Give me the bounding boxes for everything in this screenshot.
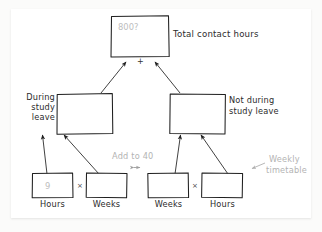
node-during-box[interactable] [57, 94, 113, 135]
weekly-timetable-annotation-line1: Weekly [269, 155, 300, 164]
node-notduring-box[interactable] [170, 94, 226, 134]
arrow-right-hours-to-notduring [201, 135, 228, 174]
during-study-leave-label-line3: leave [6, 113, 55, 122]
arrow-left-weeks-to-during [64, 135, 99, 174]
left-hours-label: Hours [29, 200, 76, 209]
right-hours-label: Hours [199, 200, 246, 209]
right-multiply-operator: × [192, 182, 198, 190]
arrow-notduring-to-total [155, 62, 180, 93]
arrow-left-hours-to-during [43, 135, 48, 174]
arrow-right-weeks-to-notduring [175, 135, 181, 174]
during-study-leave-label-line2: study [6, 103, 55, 112]
arrow-during-to-total [101, 62, 126, 93]
left-multiply-operator: × [77, 182, 83, 190]
sum-plus-operator: + [137, 57, 144, 66]
diagram-root: 800? Total contact hours + During study … [0, 0, 322, 232]
total-contact-hours-label: Total contact hours [173, 30, 259, 40]
total-box-value[interactable]: 800? [118, 22, 138, 32]
node-right-hours-box[interactable] [202, 173, 243, 198]
weekly-timetable-annotation-line2: timetable [266, 166, 307, 175]
not-during-study-leave-label-line1: Not during [229, 96, 274, 105]
node-right-weeks-box[interactable] [148, 173, 189, 198]
right-weeks-label: Weeks [145, 200, 192, 209]
left-hours-box-value[interactable]: 9 [45, 181, 50, 191]
node-left-weeks-box[interactable] [86, 173, 127, 198]
weekly-timetable-pointer-arrow [252, 163, 265, 169]
during-study-leave-label-line1: During [6, 93, 55, 102]
add-to-40-annotation: Add to 40 [112, 152, 154, 161]
left-weeks-label: Weeks [83, 200, 130, 209]
node-left-hours-box[interactable] [32, 173, 73, 198]
not-during-study-leave-label-line2: study leave [229, 107, 279, 116]
